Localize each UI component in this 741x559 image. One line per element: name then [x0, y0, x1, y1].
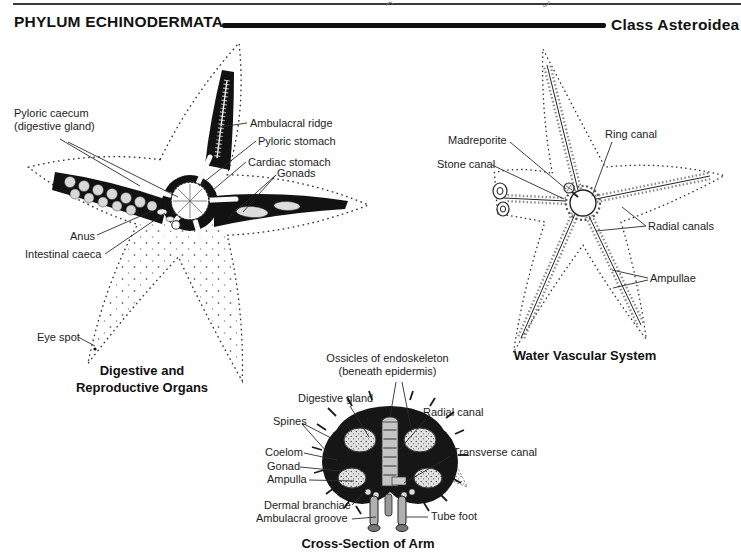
textbook-diagram-page: PHYLUM ECHINODERMATA Class Asteroidea: [0, 0, 741, 559]
label-pyloric-stomach: Pyloric stomach: [258, 135, 336, 148]
caption-cross-section: Cross-Section of Arm: [288, 536, 448, 553]
label-intestinal-caeca: Intestinal caeca: [25, 248, 101, 261]
label-coelom: Coelom: [265, 446, 303, 459]
label-ambulacral-groove: Ambulacral groove: [256, 512, 348, 525]
label-ossicles: Ossicles of endoskeleton (beneath epider…: [310, 352, 465, 378]
caption-digestive: Digestive and Reproductive Organs: [57, 363, 227, 397]
label-anus: Anus: [70, 230, 95, 243]
label-digestive-gland: Digestive gland: [298, 392, 373, 405]
water-vascular-starfish-drawing: [493, 49, 724, 353]
label-gonad: Gonad: [267, 460, 300, 473]
label-madreporite: Madreporite: [448, 134, 507, 147]
label-spines: Spines: [273, 415, 307, 428]
caption-water-vascular: Water Vascular System: [495, 348, 675, 365]
label-ampulla: Ampulla: [267, 473, 307, 486]
label-stone-canal: Stone canal: [437, 158, 495, 171]
label-ambulacral-ridge: Ambulacral ridge: [250, 117, 333, 130]
label-dermal-branchiae: Dermal branchiae: [264, 499, 351, 512]
label-ampullae: Ampullae: [650, 272, 696, 285]
label-radial-canal: Radial canal: [423, 406, 484, 419]
label-ring-canal: Ring canal: [605, 128, 657, 141]
label-tube-foot: Tube foot: [431, 510, 477, 523]
label-pyloric-caecum: Pyloric caecum (digestive gland): [14, 107, 95, 133]
label-eye-spot: Eye spot: [37, 331, 80, 344]
label-radial-canals: Radial canals: [648, 220, 714, 233]
diagram-artwork: [0, 0, 741, 559]
label-gonads: Gonads: [277, 167, 316, 180]
label-transverse-canal: Transverse canal: [453, 446, 537, 459]
cropped-text-fragments: [386, 1, 549, 6]
